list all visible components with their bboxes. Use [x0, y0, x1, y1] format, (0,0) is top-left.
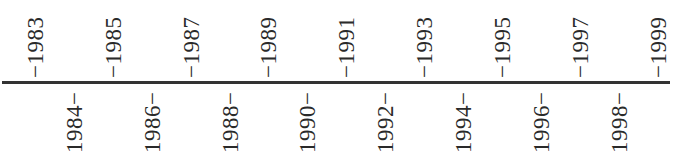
year-label-1988: 1988−: [219, 92, 242, 153]
year-label-1984: 1984−: [63, 92, 86, 153]
year-label-1983: −1983: [24, 17, 47, 78]
timeline: −1983 −1985 −1987 −1989 −1991 −1993 −199…: [0, 0, 700, 165]
year-label-1992: 1992−: [374, 92, 397, 153]
year-label-1989: −1989: [257, 17, 280, 78]
year-label-1999: −1999: [647, 17, 670, 78]
year-label-1987: −1987: [180, 17, 203, 78]
year-label-1994: 1994−: [452, 92, 475, 153]
year-label-1986: 1986−: [141, 92, 164, 153]
year-label-1996: 1996−: [530, 92, 553, 153]
year-label-1985: −1985: [102, 17, 125, 78]
year-label-1990: 1990−: [296, 92, 319, 153]
year-label-1991: −1991: [335, 17, 358, 78]
year-label-1995: −1995: [491, 17, 514, 78]
year-label-1993: −1993: [413, 17, 436, 78]
year-label-1997: −1997: [569, 17, 592, 78]
year-label-1998: 1998−: [608, 92, 631, 153]
timeline-axis-line: [2, 81, 670, 84]
